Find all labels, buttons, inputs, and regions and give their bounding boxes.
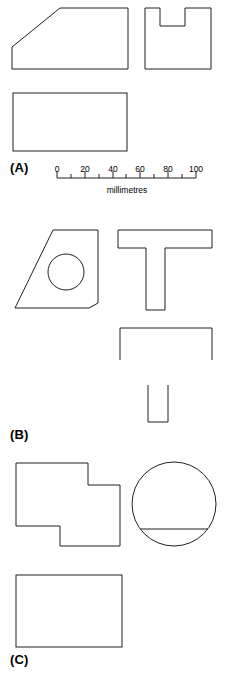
open-channel-plan-view <box>120 328 212 360</box>
scale-number-100: 100 <box>189 164 203 174</box>
scale-number-40: 40 <box>108 164 117 174</box>
circular-hole <box>48 254 84 290</box>
circle-with-chord-view <box>132 462 216 546</box>
scale-caption: millimetres <box>107 185 148 195</box>
scale-number-0: 0 <box>55 164 60 174</box>
group-label-a: (A) <box>10 160 29 175</box>
slotted-block-side-view <box>145 8 211 69</box>
wedge-front-view <box>12 8 128 69</box>
scale-number-80: 80 <box>163 164 172 174</box>
group-a-base-rectangle-plan-view <box>13 93 127 151</box>
scale-number-20: 20 <box>80 164 89 174</box>
millimetre-scale-bar <box>57 171 196 178</box>
group-label-c: (C) <box>10 652 29 667</box>
trapezoid-with-hole-front-view <box>15 230 98 308</box>
tee-section-front-view <box>118 230 212 310</box>
orthographic-views-svg <box>0 0 226 677</box>
drawing-sheet: (A) (B) (C) 0 20 40 60 80 100 millimetre… <box>0 0 226 677</box>
group-label-b: (B) <box>10 427 29 442</box>
group-c-base-rectangle-plan-view <box>16 575 122 647</box>
stepped-block-front-view <box>16 463 120 546</box>
scale-number-60: 60 <box>135 164 144 174</box>
narrow-channel-end-view <box>148 385 168 422</box>
